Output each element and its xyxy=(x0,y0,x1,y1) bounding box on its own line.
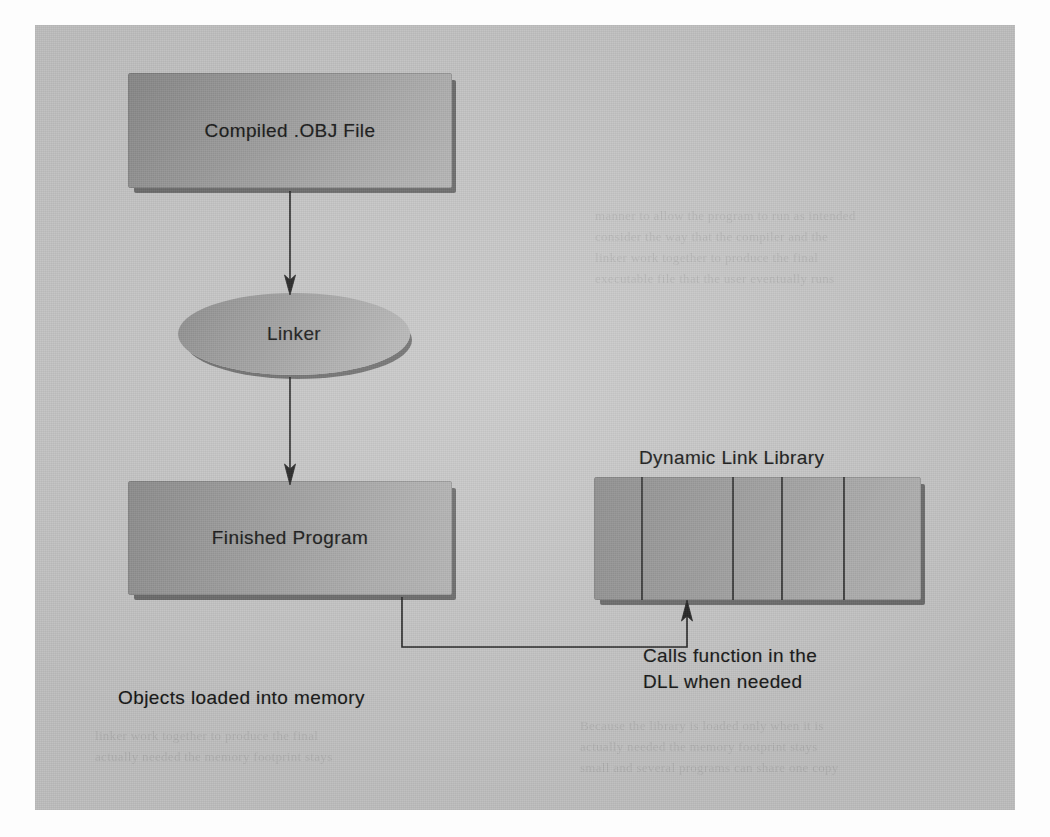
node-compiled-obj-file[interactable]: Compiled .OBJ File xyxy=(128,73,452,188)
ghost-line: linker work together to produce the fina… xyxy=(95,725,425,746)
ghost-line: Because the library is loaded only when … xyxy=(580,715,990,736)
node-compiled-obj-file-label: Compiled .OBJ File xyxy=(128,73,452,188)
scanned-page: manner to allow the program to run as in… xyxy=(0,0,1050,837)
caption-objects-loaded-into-memory: Objects loaded into memory xyxy=(118,685,458,711)
dll-compartment-divider-4 xyxy=(843,477,845,600)
ghost-line: small and several programs can share one… xyxy=(580,757,990,778)
ghost-text-block-bottom: Because the library is loaded only when … xyxy=(580,715,990,778)
dll-compartment-divider-2 xyxy=(732,477,734,600)
ghost-line: executable file that the user eventually… xyxy=(595,268,995,289)
node-finished-program[interactable]: Finished Program xyxy=(128,481,452,595)
dll-compartment-divider-3 xyxy=(781,477,783,600)
ghost-text-block-left: linker work together to produce the fina… xyxy=(95,725,425,767)
ghost-line: consider the way that the compiler and t… xyxy=(595,226,995,247)
dll-compartment-divider-1 xyxy=(641,477,643,600)
arrow-linker-to-program xyxy=(285,377,296,485)
node-linker-label: Linker xyxy=(178,293,410,375)
diagram-figure-panel: manner to allow the program to run as in… xyxy=(35,25,1015,810)
node-linker[interactable]: Linker xyxy=(178,293,410,375)
node-finished-program-label: Finished Program xyxy=(128,481,452,595)
ghost-text-block-top: manner to allow the program to run as in… xyxy=(595,205,995,289)
arrow-obj-to-linker xyxy=(285,191,296,295)
ghost-line: linker work together to produce the fina… xyxy=(595,247,995,268)
node-dynamic-link-library[interactable] xyxy=(594,477,921,600)
ghost-line: actually needed the memory footprint sta… xyxy=(95,746,425,767)
dynamic-link-library-title: Dynamic Link Library xyxy=(639,447,824,469)
arrow-program-to-dll xyxy=(402,597,693,647)
caption-calls-function-in-dll: Calls function in the DLL when needed xyxy=(643,643,933,695)
ghost-line: actually needed the memory footprint sta… xyxy=(580,736,990,757)
ghost-line: manner to allow the program to run as in… xyxy=(595,205,995,226)
